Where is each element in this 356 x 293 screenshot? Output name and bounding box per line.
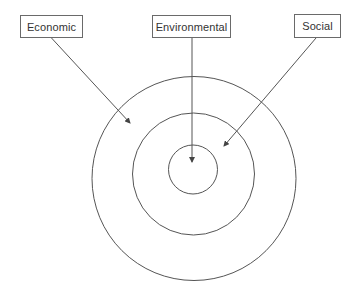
social-arrow [224,38,316,146]
concentric-diagram [0,0,356,293]
economic-label: Economic [27,21,76,33]
social-label: Social [302,20,333,32]
outer-ring-circle [92,77,296,281]
environmental-label-box: Environmental [152,15,231,38]
inner-circle [169,145,218,194]
economic-arrow [52,38,131,123]
social-label-box: Social [294,14,341,38]
environmental-label: Environmental [156,21,228,33]
economic-label-box: Economic [20,15,83,38]
